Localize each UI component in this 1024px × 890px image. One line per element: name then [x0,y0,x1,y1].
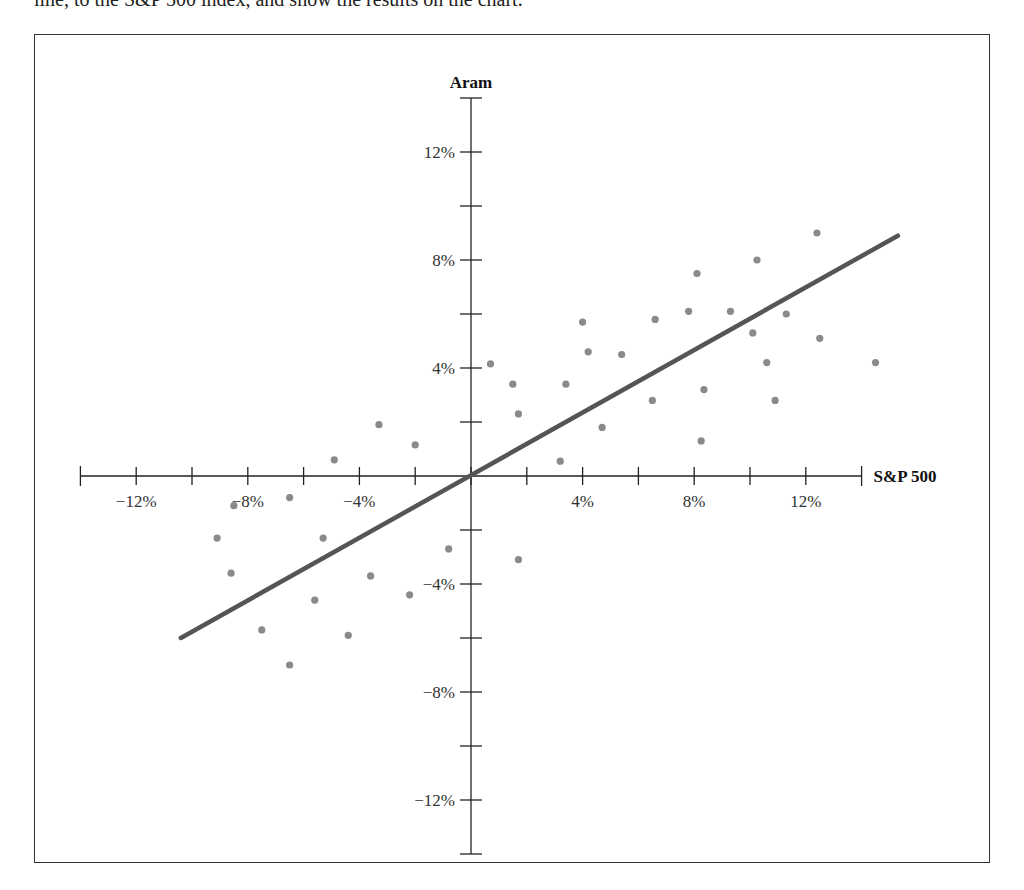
data-point [445,545,452,552]
characteristic-line [181,236,898,638]
data-point [753,256,760,263]
data-point [487,360,494,367]
y-tick-label: −4% [423,575,455,594]
data-point [515,410,522,417]
data-point [311,597,318,604]
data-point [286,661,293,668]
x-tick-label: −12% [116,492,157,511]
data-point [331,456,338,463]
data-point [727,308,734,315]
data-point [763,359,770,366]
y-tick-label: 4% [432,359,455,378]
data-point [772,397,779,404]
data-point [258,626,265,633]
data-point [649,397,656,404]
data-point [700,386,707,393]
data-point [579,319,586,326]
x-tick-label: −8% [232,492,264,511]
data-point [562,381,569,388]
y-axis-title: Aram [450,73,492,92]
x-tick-label: −4% [343,492,375,511]
data-point [375,421,382,428]
data-point [813,229,820,236]
data-point [872,359,879,366]
data-point [515,556,522,563]
data-point [585,348,592,355]
x-tick-label: 4% [571,492,594,511]
x-axis-title: S&P 500 [874,467,937,486]
axis-labels: −12%−8%−4%4%8%12%12%8%4%−4%−8%−12%S&P 50… [116,73,937,810]
data-point [367,572,374,579]
data-point [227,570,234,577]
y-tick-label: 8% [432,251,455,270]
data-point [693,270,700,277]
y-tick-label: 12% [424,143,455,162]
regression-line [181,236,898,638]
data-point [698,437,705,444]
x-tick-label: 8% [683,492,706,511]
scatter-chart: −12%−8%−4%4%8%12%12%8%4%−4%−8%−12%S&P 50… [0,0,1024,890]
y-tick-label: −12% [414,791,455,810]
data-point [557,458,564,465]
data-point [783,310,790,317]
data-point [345,632,352,639]
data-point [685,308,692,315]
x-tick-label: 12% [790,492,821,511]
data-point [214,535,221,542]
data-point [412,441,419,448]
data-point [749,329,756,336]
data-point [652,316,659,323]
data-point [509,381,516,388]
data-point [286,494,293,501]
y-tick-label: −8% [423,683,455,702]
data-point [599,424,606,431]
data-point [816,335,823,342]
data-point [618,351,625,358]
data-point [320,535,327,542]
data-point [406,591,413,598]
data-points [214,229,880,668]
